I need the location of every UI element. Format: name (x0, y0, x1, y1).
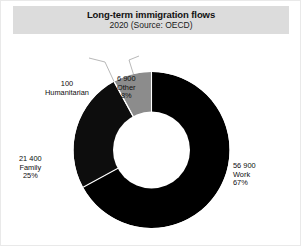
donut-chart (1, 34, 301, 246)
page-title: Long-term immigration flows (87, 9, 215, 20)
leader-line-other (129, 56, 139, 76)
leader-line-humanitarian (89, 58, 114, 82)
slice-label-other: 6 900 Other 8% (117, 75, 136, 101)
slice-percent-work: 67% (233, 179, 256, 188)
slice-label-family: 21 400 Family 25% (19, 155, 42, 181)
chart-title-banner: Long-term immigration flows 2020 (Source… (13, 6, 289, 34)
chart-figure: Long-term immigration flows 2020 (Source… (0, 0, 301, 246)
plot-area: 56 900 Work 67% 21 400 Family 25% 100 Hu… (1, 34, 301, 246)
slice-label-work: 56 900 Work 67% (233, 162, 256, 188)
chart-subtitle: 2020 (Source: OECD) (109, 20, 192, 31)
slice-name-humanitarian: Humanitarian (45, 89, 89, 98)
slice-label-humanitarian: 100 Humanitarian (45, 80, 89, 97)
slice-percent-other: 8% (117, 92, 136, 101)
slice-percent-family: 25% (19, 172, 42, 181)
